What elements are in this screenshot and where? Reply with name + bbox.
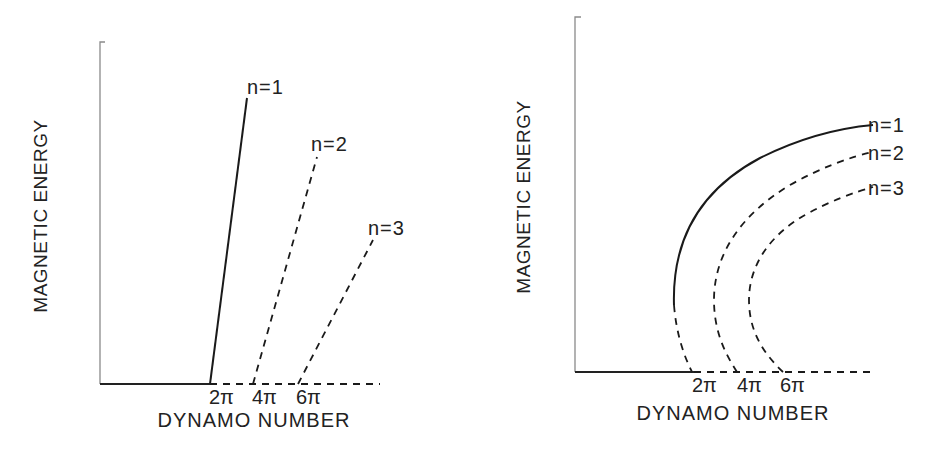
figure: n=1 n=2 n=3 2π 4π 6π DYNAMO NUMBER MAGNE… — [0, 0, 934, 449]
right-tick-4pi: 4π — [737, 374, 762, 396]
right-label-n1: n=1 — [868, 114, 905, 136]
right-x-axis-label: DYNAMO NUMBER — [636, 402, 829, 424]
left-label-n2: n=2 — [311, 133, 348, 155]
left-label-n3: n=3 — [368, 217, 405, 239]
right-panel: n=1 n=2 n=3 2π 4π 6π DYNAMO NUMBER MAGNE… — [513, 17, 905, 424]
right-label-n3: n=3 — [868, 177, 905, 199]
left-tick-4pi: 4π — [252, 386, 277, 408]
right-label-n2: n=2 — [868, 142, 905, 164]
left-x-axis-label: DYNAMO NUMBER — [157, 409, 350, 431]
left-curve-n2 — [253, 157, 317, 384]
right-curve-n3 — [749, 187, 873, 372]
right-y-axis-label: MAGNETIC ENERGY — [513, 100, 534, 293]
left-tick-6pi: 6π — [296, 386, 321, 408]
right-curve-n1-lower — [674, 305, 692, 372]
left-y-axis-label: MAGNETIC ENERGY — [30, 119, 51, 312]
right-tick-6pi: 6π — [780, 374, 805, 396]
right-curve-n1-upper — [674, 125, 873, 305]
left-tick-2pi: 2π — [209, 386, 234, 408]
left-curve-n1 — [210, 98, 247, 384]
left-label-n1: n=1 — [247, 76, 284, 98]
left-panel: n=1 n=2 n=3 2π 4π 6π DYNAMO NUMBER MAGNE… — [30, 42, 405, 431]
left-curve-n3 — [298, 240, 373, 384]
right-curve-n2 — [714, 152, 873, 372]
right-y-axis — [575, 17, 581, 372]
left-y-axis — [100, 42, 105, 384]
right-tick-2pi: 2π — [692, 374, 717, 396]
